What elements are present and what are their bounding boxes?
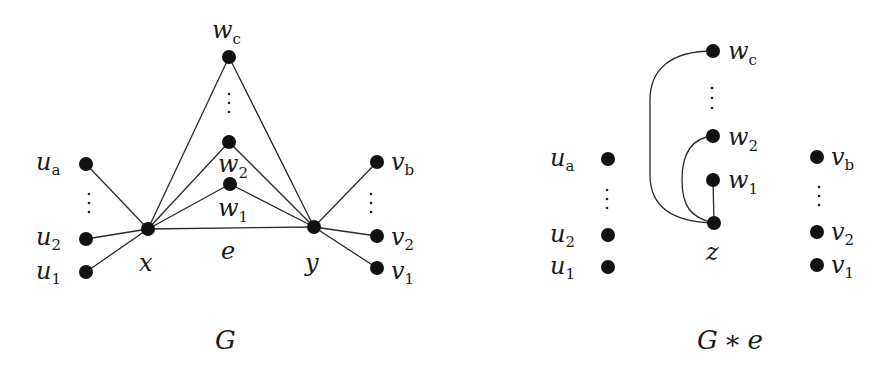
- edge-y-vb: [314, 162, 377, 227]
- node-v1-right: [810, 258, 824, 272]
- node-u1-right: [601, 260, 615, 274]
- label-ua: ua: [36, 148, 60, 179]
- label-ua-right: ua: [550, 144, 574, 175]
- edge-x-ua: [86, 164, 148, 229]
- label-w1: w1: [218, 194, 248, 226]
- node-ua-right: [601, 152, 615, 166]
- label-vb-right: vb: [831, 143, 854, 174]
- label-u1: u1: [36, 257, 61, 288]
- label-wc: wc: [212, 16, 241, 48]
- node-w1: [223, 177, 237, 191]
- label-u2: u2: [36, 223, 61, 254]
- ellipsis-u: [88, 193, 91, 214]
- label-u2-right: u2: [550, 220, 575, 251]
- node-vb: [370, 155, 384, 169]
- ellipsis-u-right: [606, 189, 609, 210]
- label-u1-right: u1: [550, 252, 575, 283]
- node-wc-right: [706, 44, 720, 58]
- node-v2: [370, 229, 384, 243]
- ellipsis-w: [228, 93, 231, 114]
- ellipsis-v-right: [818, 186, 821, 207]
- node-v2-right: [810, 225, 824, 239]
- label-v1: v1: [391, 257, 414, 288]
- diagram-svg: wc w2 w1 x y e ua u2 u1 vb v2 v1 G: [0, 0, 890, 377]
- label-wc-right: wc: [728, 37, 757, 69]
- caption-G-star-e: G∗e: [697, 325, 763, 355]
- edge-x-w2: [148, 142, 229, 229]
- edge-x-wc: [148, 57, 229, 229]
- edge-x-u2: [86, 229, 148, 239]
- label-vb: vb: [391, 148, 414, 179]
- ellipsis-w-right: [711, 87, 714, 110]
- label-edge-e: e: [221, 237, 235, 265]
- node-y: [307, 220, 321, 234]
- caption-G: G: [215, 325, 236, 355]
- label-x: x: [139, 249, 153, 277]
- edge-y-v1: [314, 227, 377, 268]
- edge-y-v2: [314, 227, 377, 236]
- label-v2-right: v2: [831, 218, 854, 249]
- node-v1: [370, 261, 384, 275]
- node-z: [707, 216, 721, 230]
- graph-G: wc w2 w1 x y e ua u2 u1 vb v2 v1 G: [36, 16, 414, 355]
- node-vb-right: [810, 150, 824, 164]
- edge-y-wc: [229, 57, 314, 227]
- node-ua: [79, 157, 93, 171]
- label-v2: v2: [391, 223, 414, 254]
- node-x: [141, 222, 155, 236]
- label-w2-right: w2: [728, 123, 758, 155]
- node-w2-right: [706, 129, 720, 143]
- node-u2-right: [601, 228, 615, 242]
- graph-G-star-e: wc w2 w1 z ua u2 u1 vb v2 v1 G∗e: [550, 37, 854, 355]
- node-wc: [222, 50, 236, 64]
- node-u2: [79, 232, 93, 246]
- label-z: z: [705, 238, 719, 266]
- label-y: y: [304, 249, 319, 277]
- edge-x-y: [148, 227, 314, 229]
- label-w2: w2: [218, 150, 248, 182]
- node-u1: [79, 265, 93, 279]
- node-w1-right: [706, 173, 720, 187]
- label-w1-right: w1: [728, 166, 758, 198]
- graph-figure: wc w2 w1 x y e ua u2 u1 vb v2 v1 G: [0, 0, 890, 377]
- node-w2: [222, 135, 236, 149]
- label-v1-right: v1: [831, 251, 854, 282]
- ellipsis-v: [370, 193, 373, 214]
